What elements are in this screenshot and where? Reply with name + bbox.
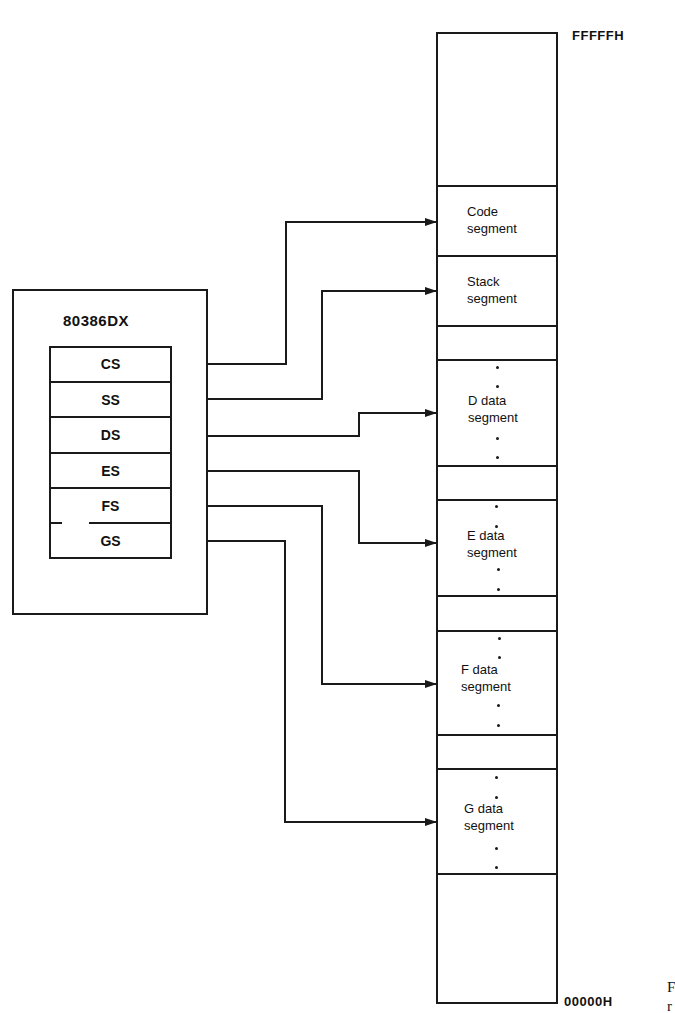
ellipsis-dot: [495, 866, 498, 869]
register-label: CS: [101, 356, 120, 372]
register-cs: CS: [49, 346, 172, 382]
memory-divider: [436, 325, 558, 327]
g-data-segment-label: G data segment: [464, 800, 514, 834]
ellipsis-dot: [495, 776, 498, 779]
ellipsis-dot: [495, 847, 498, 850]
register-divider: [49, 557, 172, 559]
ellipsis-dot: [496, 437, 499, 440]
register-label: GS: [100, 533, 120, 549]
ellipsis-dot: [495, 525, 498, 528]
e-data-segment-label: E data segment: [467, 527, 517, 561]
ellipsis-dot: [496, 366, 499, 369]
ellipsis-dot: [495, 505, 498, 508]
memory-map: [436, 32, 558, 1004]
register-ss: SS: [49, 382, 172, 417]
memory-divider: [436, 359, 558, 361]
memory-divider: [436, 255, 558, 257]
memory-divider: [436, 734, 558, 736]
caption-fragment: F r: [667, 978, 675, 1013]
ellipsis-dot: [497, 724, 500, 727]
register-ds: DS: [49, 417, 172, 453]
register-label: SS: [101, 392, 120, 408]
code-segment-label: Code segment: [467, 203, 517, 237]
ellipsis-dot: [498, 656, 501, 659]
memory-divider: [436, 595, 558, 597]
ellipsis-dot: [496, 456, 499, 459]
register-label: DS: [101, 427, 120, 443]
memory-divider: [436, 465, 558, 467]
cpu-title: 80386DX: [63, 312, 129, 329]
top-address: FFFFFH: [572, 28, 624, 43]
ellipsis-dot: [497, 588, 500, 591]
ellipsis-dot: [496, 385, 499, 388]
ds-arrow: [172, 413, 436, 436]
d-data-segment-label: D data segment: [468, 392, 518, 426]
bottom-address: 00000H: [564, 994, 613, 1009]
ellipsis-dot: [497, 704, 500, 707]
register-es: ES: [49, 453, 172, 488]
register-label: ES: [101, 463, 120, 479]
f-data-segment-label: F data segment: [461, 661, 511, 695]
ellipsis-dot: [495, 796, 498, 799]
memory-divider: [436, 499, 558, 501]
fs-arrow: [172, 506, 436, 684]
ellipsis-dot: [498, 637, 501, 640]
register-fs: FS: [49, 488, 172, 523]
gs-arrow: [172, 541, 436, 822]
ellipsis-dot: [497, 568, 500, 571]
memory-divider: [436, 768, 558, 770]
register-gs: GS: [49, 523, 172, 558]
memory-divider: [436, 873, 558, 875]
memory-divider: [436, 630, 558, 632]
register-label: FS: [102, 498, 120, 514]
ss-arrow: [172, 291, 436, 399]
stack-segment-label: Stack segment: [467, 273, 517, 307]
cs-arrow: [172, 222, 436, 364]
memory-divider: [436, 185, 558, 187]
